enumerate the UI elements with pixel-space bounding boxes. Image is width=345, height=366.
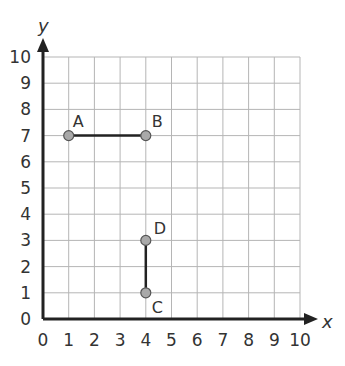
axes: xy (37, 15, 333, 332)
x-tick-label: 10 (289, 330, 311, 350)
x-tick-label: 3 (115, 330, 126, 350)
x-tick-label: 9 (269, 330, 280, 350)
coordinate-plane: xy 012345678910012345678910 ABCD (0, 0, 345, 366)
y-tick-label: 0 (20, 309, 31, 329)
y-axis-label: y (37, 15, 49, 36)
point-A (64, 131, 74, 141)
grid-lines (43, 57, 300, 319)
point-B (141, 131, 151, 141)
y-tick-label: 4 (20, 204, 31, 224)
x-tick-label: 0 (38, 330, 49, 350)
x-tick-label: 1 (63, 330, 74, 350)
y-tick-label: 5 (20, 178, 31, 198)
y-tick-label: 8 (20, 99, 31, 119)
y-tick-label: 3 (20, 230, 31, 250)
x-axis-label: x (321, 311, 333, 332)
y-tick-label: 6 (20, 152, 31, 172)
x-tick-label: 8 (243, 330, 254, 350)
x-tick-label: 6 (192, 330, 203, 350)
coordinate-grid-diagram: xy 012345678910012345678910 ABCD (0, 0, 345, 366)
point-label-C: C (152, 298, 163, 317)
point-label-A: A (73, 112, 84, 131)
x-tick-label: 5 (166, 330, 177, 350)
point-label-B: B (152, 112, 163, 131)
y-tick-label: 1 (20, 283, 31, 303)
point-C (141, 288, 151, 298)
point-D (141, 235, 151, 245)
x-tick-label: 7 (217, 330, 228, 350)
y-tick-label: 2 (20, 257, 31, 277)
y-tick-label: 9 (20, 73, 31, 93)
y-tick-label: 7 (20, 126, 31, 146)
point-label-D: D (154, 219, 166, 238)
x-tick-label: 4 (140, 330, 151, 350)
y-axis-arrow-icon (37, 38, 49, 52)
x-tick-label: 2 (89, 330, 100, 350)
x-axis-arrow-icon (304, 313, 318, 325)
y-tick-label: 10 (9, 47, 31, 67)
